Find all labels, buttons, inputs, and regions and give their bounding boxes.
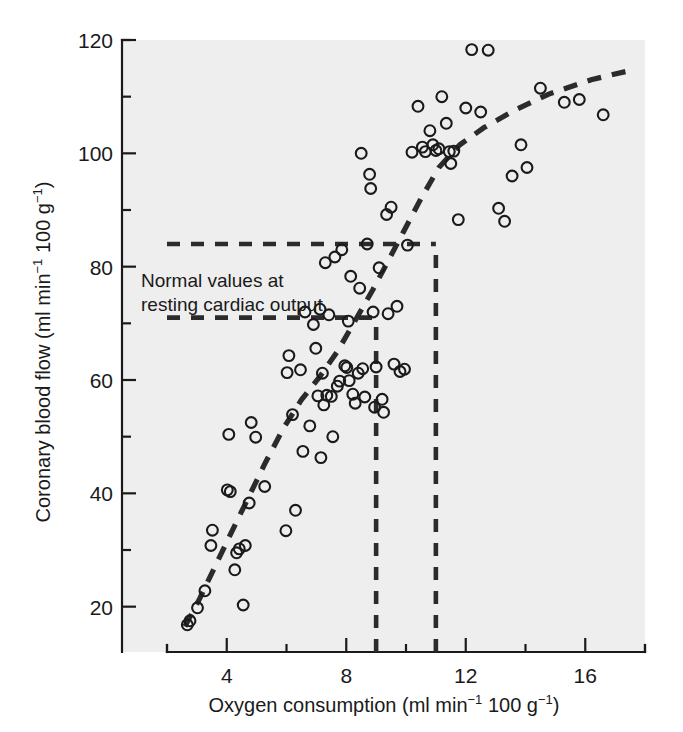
plot-background	[122, 40, 645, 652]
x-axis-title-tail: )	[553, 694, 560, 716]
y-tick-label-group: 20406080100120	[78, 29, 113, 619]
svg-text:Oxygen consumption (ml min−1 1: Oxygen consumption (ml min−1 100 g−1)	[209, 692, 560, 716]
y-tick-label: 80	[90, 256, 113, 279]
x-tick-label: 12	[454, 664, 477, 687]
x-axis-title-main: Oxygen consumption (ml min	[209, 694, 468, 716]
x-axis-title-sup1: −1	[468, 692, 483, 707]
y-tick-label: 100	[78, 142, 113, 165]
x-tick-label: 4	[221, 664, 233, 687]
x-tick-label: 8	[340, 664, 352, 687]
annotation-line-1: Normal values at	[141, 270, 284, 291]
x-tick-label-group: 481216	[221, 664, 597, 687]
y-axis-title-tail: )	[32, 182, 54, 189]
y-axis-title-sup1: −1	[30, 259, 45, 274]
chart-svg: 20406080100120 481216 Normal values at r…	[0, 0, 683, 732]
y-axis-title-mid: 100 g	[32, 203, 54, 259]
y-tick-label: 20	[90, 596, 113, 619]
coronary-blood-flow-scatter-figure: 20406080100120 481216 Normal values at r…	[0, 0, 683, 732]
x-tick-label: 16	[574, 664, 597, 687]
x-axis-title: Oxygen consumption (ml min−1 100 g−1)	[209, 692, 560, 716]
y-tick-label: 60	[90, 369, 113, 392]
annotation-line-2: resting cardiac output	[141, 294, 323, 315]
y-axis-title-sup2: −1	[30, 188, 45, 203]
y-axis-title-main: Coronary blood flow (ml min	[32, 273, 54, 522]
y-tick-label: 120	[78, 29, 113, 52]
x-axis-title-sup2: −1	[538, 692, 553, 707]
svg-text:Coronary blood flow (ml min−1: Coronary blood flow (ml min−1 100 g−1)	[30, 182, 54, 523]
y-tick-label: 40	[90, 482, 113, 505]
x-axis-title-mid: 100 g	[482, 694, 538, 716]
y-axis-title: Coronary blood flow (ml min−1 100 g−1)	[30, 182, 54, 523]
